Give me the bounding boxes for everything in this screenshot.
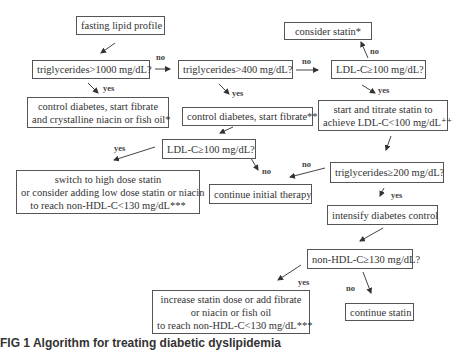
node-text-line: to reach non-HDL-C<130 mg/dL*** [21, 199, 195, 212]
node-continue-statin: continue statin [345, 303, 414, 321]
edge-label-no: no [156, 52, 165, 62]
edge-label-no: no [346, 283, 355, 293]
node-text-line: switch to high dose statin [21, 173, 195, 186]
node-text-line: start and titrate statin to [323, 103, 443, 116]
node-text: consider statin* [289, 25, 367, 38]
node-text-line: to reach non-HDL-C<130 mg/dL*** [157, 319, 305, 332]
node-triglycerides-400: triglycerides>400 mg/dL? [178, 60, 293, 79]
node-ldl-c-100-mid: LDL-C≥100 mg/dL? [162, 139, 256, 159]
node-text-line: or niacin or fish oil [157, 306, 305, 319]
node-text: triglycerides≥200 mg/dL? [335, 166, 439, 179]
edge-label-yes: yes [391, 190, 402, 200]
node-text: fasting lipid profile [81, 19, 160, 32]
node-fasting-lipid-profile: fasting lipid profile [76, 16, 165, 35]
edge-label-yes: yes [114, 143, 125, 153]
node-triglycerides-200: triglycerides≥200 mg/dL? [330, 162, 444, 183]
node-text: control diabetes, start fibrate** [187, 110, 308, 123]
node-non-hdl-c-130: non-HDL-C≥130 mg/dL? [307, 249, 413, 269]
edge-label-yes: yes [232, 88, 243, 98]
node-text: triglycerides>400 mg/dL? [183, 63, 288, 76]
edge-label-no: no [262, 166, 271, 176]
node-control-diabetes-fibrate: control diabetes, start fibrate** [182, 107, 313, 126]
node-start-titrate-statin: start and titrate statin to achieve LDL-… [318, 100, 448, 131]
edge-label-no: no [302, 56, 311, 66]
node-consider-statin: consider statin* [284, 22, 372, 40]
edge-label-no: no [370, 46, 379, 56]
node-ldl-c-100-top: LDL-C≥100 mg/dL? [331, 60, 426, 79]
edge-label-yes: yes [298, 277, 309, 287]
node-text: triglycerides>1000 mg/dL? [37, 63, 145, 76]
node-text-line: achieve LDL-C<100 mg/dL⁺⁺ [323, 116, 443, 129]
node-text: non-HDL-C≥130 mg/dL? [312, 253, 408, 266]
node-text: intensify diabetes control [332, 209, 433, 222]
node-text-line: and crystalline niacin or fish oil* [32, 113, 164, 126]
node-triglycerides-1000: triglycerides>1000 mg/dL? [32, 60, 150, 79]
node-text: continue initial therapy [214, 188, 307, 201]
node-continue-initial-therapy: continue initial therapy [209, 184, 312, 204]
node-text: LDL-C≥100 mg/dL? [167, 143, 251, 156]
node-intensify-diabetes-control: intensify diabetes control [327, 205, 438, 225]
edge-label-yes: yes [378, 85, 389, 95]
node-text: LDL-C≥100 mg/dL? [336, 63, 421, 76]
node-text-line: increase statin dose or add fibrate [157, 293, 305, 306]
figure-caption: FIG 1 Algorithm for treating diabetic dy… [0, 336, 281, 350]
node-text: continue statin [350, 306, 409, 319]
node-control-diabetes-fibrate-niacin: control diabetes, start fibrate and crys… [27, 97, 169, 128]
node-text-line: control diabetes, start fibrate [32, 100, 164, 113]
edge-label-yes: yes [103, 83, 114, 93]
node-text-line: or consider adding low dose statin or ni… [21, 186, 195, 199]
edge-label-no: no [302, 159, 311, 169]
node-switch-high-dose-statin: switch to high dose statin or consider a… [16, 170, 200, 214]
node-increase-statin-dose: increase statin dose or add fibrate or n… [152, 290, 310, 334]
